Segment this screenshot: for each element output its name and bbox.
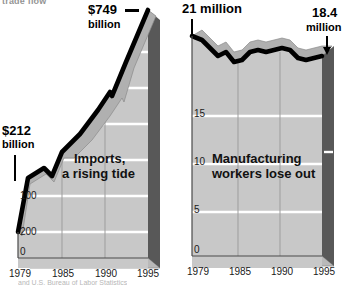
imports-title-line1: Imports, (74, 152, 125, 167)
manufacturing-ytick-0: 0 (194, 244, 200, 255)
chart-manufacturing: 15 10 5 0 Manufacturing workers lose out… (180, 0, 354, 270)
manufacturing-xtick-1985: 1985 (222, 266, 258, 277)
manufacturing-ytick-5: 5 (194, 204, 200, 215)
manufacturing-end-unit: million (306, 22, 341, 33)
manufacturing-start-leader (191, 19, 193, 35)
manufacturing-end-arrow-icon (321, 36, 333, 56)
imports-start-leader (14, 155, 16, 181)
imports-start-value: $212 (2, 124, 31, 137)
imports-xtick-1985: 1985 (45, 268, 81, 279)
manufacturing-title-line2: workers lose out (212, 167, 315, 182)
manufacturing-ytick-15: 15 (194, 108, 205, 119)
manufacturing-xtick-1979: 1979 (180, 266, 216, 277)
imports-xtick-1995: 1995 (130, 268, 166, 279)
manufacturing-xtick-1995: 1995 (306, 266, 342, 277)
manufacturing-start-value: 21 million (182, 2, 242, 15)
manufacturing-ytick-10: 10 (194, 156, 205, 167)
imports-ytick-100: 100 (20, 190, 37, 201)
imports-ytick-200: 200 (20, 226, 37, 237)
source-note: and U.S. Bureau of Labor Statistics (18, 279, 127, 287)
imports-xtick-1990: 1990 (88, 268, 124, 279)
manufacturing-title-line1: Manufacturing (212, 152, 302, 167)
chart-imports: 200 100 0 Imports, a rising tide $212 bi… (0, 0, 178, 270)
imports-end-unit: billion (88, 19, 120, 30)
imports-title-line2: a rising tide (62, 167, 135, 182)
imports-end-leader (125, 9, 139, 12)
imports-ytick-0: 0 (20, 246, 26, 257)
manufacturing-xtick-1990: 1990 (264, 266, 300, 277)
manufacturing-end-value: 18.4 (312, 6, 337, 19)
imports-start-unit: billion (2, 139, 34, 150)
imports-end-value: $749 (88, 3, 117, 16)
manufacturing-depth-panel (322, 46, 334, 266)
figure-root: trade flow (0, 0, 354, 287)
imports-depth-panel (148, 10, 160, 268)
imports-xtick-1979: 1979 (2, 268, 38, 279)
